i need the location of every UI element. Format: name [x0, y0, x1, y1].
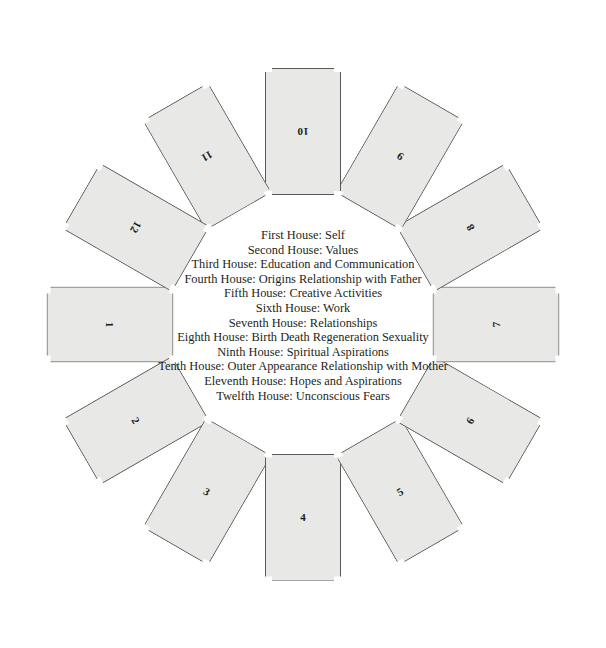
house-card-number: 4 [266, 512, 340, 523]
legend-line: First House: Self [93, 228, 513, 243]
legend-line: Eighth House: Birth Death Regeneration S… [93, 331, 513, 346]
house-card-number: 3 [172, 468, 242, 515]
house-card-10[interactable]: 10 [265, 68, 341, 195]
legend-line: Fourth House: Origins Relationship with … [93, 272, 513, 287]
astrology-wheel-canvas: 123456789101112 First House: SelfSecond … [0, 0, 606, 648]
house-card-number: 11 [172, 134, 242, 181]
legend-line: Eleventh House: Hopes and Aspirations [93, 374, 513, 389]
legend-line: Second House: Values [93, 243, 513, 258]
house-card-4[interactable]: 4 [265, 454, 341, 581]
house-card-number: 5 [365, 468, 435, 515]
legend-line: Fifth House: Creative Activities [93, 287, 513, 302]
house-card-number: 10 [266, 126, 340, 137]
legend-line: Tenth House: Outer Appearance Relationsh… [93, 360, 513, 375]
legend-line: Twelfth House: Unconscious Fears [93, 389, 513, 404]
house-meanings-legend: First House: SelfSecond House: ValuesThi… [93, 228, 513, 403]
legend-line: Third House: Education and Communication [93, 258, 513, 273]
legend-line: Seventh House: Relationships [93, 316, 513, 331]
legend-line: Sixth House: Work [93, 301, 513, 316]
legend-line: Ninth House: Spiritual Aspirations [93, 345, 513, 360]
house-card-number: 9 [365, 134, 435, 181]
